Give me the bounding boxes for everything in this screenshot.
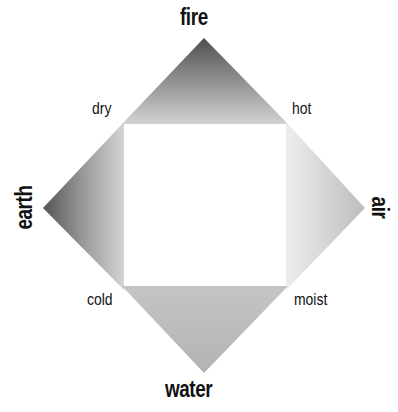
moist-label: moist bbox=[294, 291, 327, 308]
air-triangle bbox=[286, 122, 365, 290]
earth-label: earth bbox=[13, 185, 36, 229]
center-square bbox=[124, 124, 286, 286]
air-label: air bbox=[368, 197, 391, 219]
cold-label: cold bbox=[87, 291, 113, 308]
elements-diagram: fire earth air water dry hot cold moist bbox=[0, 0, 398, 412]
earth-triangle bbox=[43, 122, 124, 290]
water-label: water bbox=[165, 378, 212, 401]
fire-triangle bbox=[122, 38, 288, 124]
dry-label: dry bbox=[92, 100, 111, 117]
hot-label: hot bbox=[292, 100, 311, 117]
water-triangle bbox=[122, 286, 288, 373]
fire-label: fire bbox=[180, 6, 208, 29]
diamond-graphic bbox=[0, 0, 398, 412]
